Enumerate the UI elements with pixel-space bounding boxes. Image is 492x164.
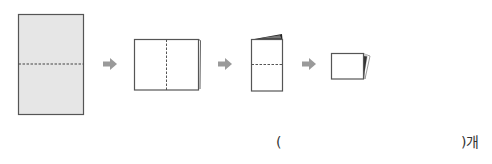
- folded-thrice-paper: [332, 54, 371, 80]
- answer-close-unit: )개: [461, 133, 479, 151]
- answer-open-paren: (: [276, 133, 281, 151]
- unfolded-paper: [19, 15, 84, 115]
- folded-once-paper: [135, 40, 201, 91]
- arrow-right-icon: [302, 58, 316, 70]
- folded-twice-paper: [252, 34, 283, 91]
- arrow-right-icon: [218, 58, 232, 70]
- arrow-right-icon: [103, 58, 117, 70]
- folding-diagram: [0, 0, 492, 164]
